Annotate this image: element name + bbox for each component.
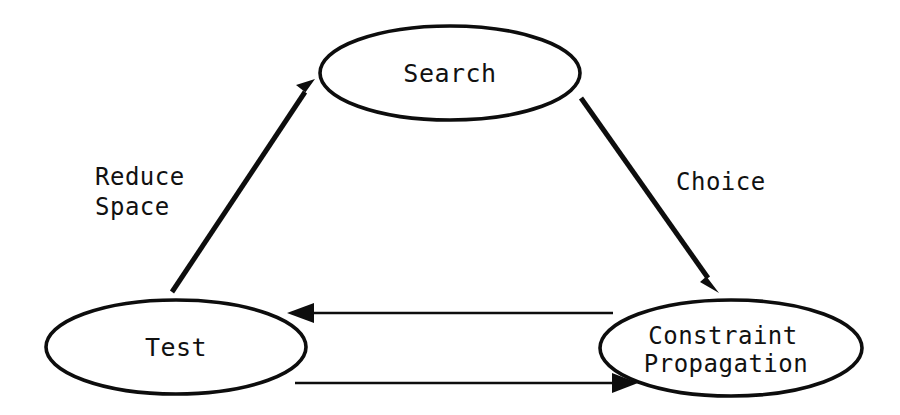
edge-search-to-constraint: Choice	[581, 98, 766, 293]
node-test-label: Test	[145, 333, 207, 362]
node-constraint-propagation[interactable]: Constraint Propagation	[600, 300, 862, 396]
edge-label-reduce-line2: Space	[95, 193, 170, 221]
edge-constraint-to-test-arrowhead	[287, 303, 314, 323]
edge-test-to-search: Reduce Space	[95, 79, 315, 292]
node-test[interactable]: Test	[46, 300, 306, 394]
node-constraint-propagation-label-line2: Propagation	[644, 350, 808, 378]
node-search[interactable]: Search	[320, 26, 580, 120]
edge-label-reduce-line1: Reduce	[95, 163, 185, 191]
edge-test-to-search-line	[172, 92, 305, 292]
node-constraint-propagation-label-line1: Constraint	[648, 322, 798, 350]
edge-constraint-to-test	[287, 303, 613, 323]
edge-test-to-constraint	[295, 373, 638, 393]
edge-label-choice: Choice	[676, 168, 766, 196]
flow-diagram: Reduce Space Choice Search Test	[0, 0, 900, 415]
diagram-canvas: Reduce Space Choice Search Test	[0, 0, 900, 415]
node-search-label: Search	[403, 59, 496, 88]
